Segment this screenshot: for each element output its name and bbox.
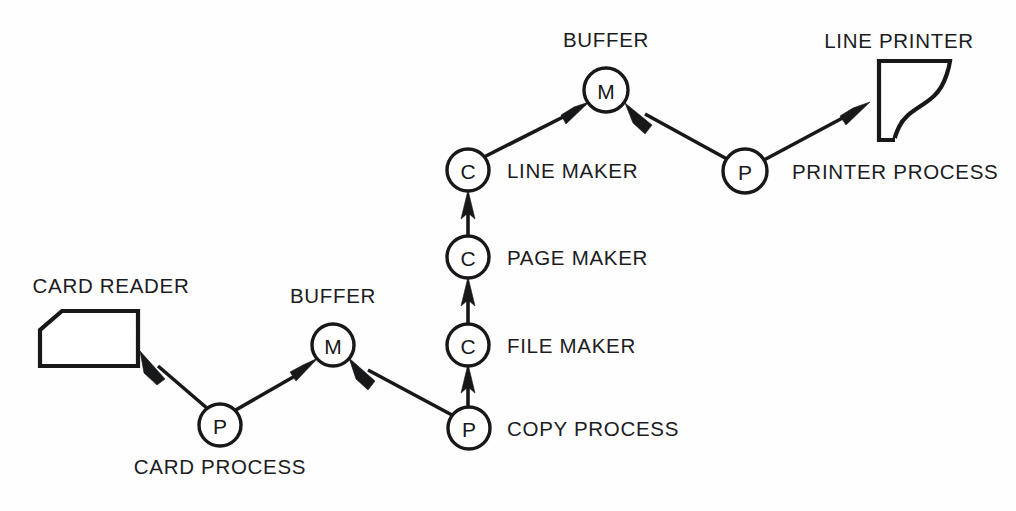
edge-card-process-to-buffer-lower <box>234 358 318 411</box>
node-line-maker[interactable]: C <box>447 149 489 191</box>
edge-card-process-to-card-reader <box>140 351 208 409</box>
arrow-head <box>561 102 589 124</box>
node-buffer-lower[interactable]: M <box>312 324 354 366</box>
node-letter: C <box>460 160 475 183</box>
edge-page-maker-to-line-maker <box>461 190 475 236</box>
edge-line <box>234 372 302 411</box>
edge-copy-process-to-file-maker <box>461 364 475 407</box>
edge-line-maker-to-buffer-upper <box>484 102 589 157</box>
arrow-head <box>290 358 318 381</box>
node-page-maker[interactable]: C <box>447 236 489 278</box>
line-printer-shape <box>879 61 950 140</box>
node-letter: C <box>460 247 475 270</box>
node-copy-process[interactable]: P <box>448 407 490 449</box>
node-letter: P <box>738 161 752 184</box>
edge-line <box>368 370 452 415</box>
node-file-maker[interactable]: C <box>447 324 489 366</box>
node-buffer-upper[interactable]: M <box>584 68 628 112</box>
edge-printer-process-to-line-printer <box>764 102 870 160</box>
label-printer-process: PRINTER PROCESS <box>792 160 998 183</box>
card-reader-shape <box>40 311 138 366</box>
line-printer-device <box>879 61 950 140</box>
edge-line <box>764 114 850 160</box>
edge-copy-process-to-buffer-lower <box>349 358 452 415</box>
arrow-head <box>625 103 652 134</box>
edge-printer-process-to-buffer-upper <box>625 103 727 159</box>
label-buffer-lower: BUFFER <box>290 284 376 307</box>
node-letter: P <box>462 418 476 441</box>
label-page-maker: PAGE MAKER <box>507 246 648 269</box>
label-line-printer: LINE PRINTER <box>824 29 974 52</box>
arrow-head <box>349 358 375 390</box>
node-letter: M <box>597 80 615 103</box>
node-card-process[interactable]: P <box>199 404 241 446</box>
label-card-reader: CARD READER <box>33 274 190 297</box>
node-letter: M <box>324 335 342 358</box>
edge-line <box>645 114 727 159</box>
label-file-maker: FILE MAKER <box>507 334 636 357</box>
label-card-process: CARD PROCESS <box>134 455 306 478</box>
arrow-head <box>840 102 870 125</box>
node-letter: P <box>213 415 227 438</box>
edge-file-maker-to-page-maker <box>461 277 475 324</box>
label-copy-process: COPY PROCESS <box>507 417 679 440</box>
card-reader-device <box>40 311 138 366</box>
label-buffer-upper: BUFFER <box>563 28 649 51</box>
edge-line <box>484 113 571 157</box>
edge-line <box>158 366 208 409</box>
flow-diagram: P M P C C C M P <box>0 0 1016 511</box>
node-printer-process[interactable]: P <box>723 149 767 193</box>
label-line-maker: LINE MAKER <box>507 159 638 182</box>
diagram-canvas: P M P C C C M P <box>0 0 1016 511</box>
node-letter: C <box>460 335 475 358</box>
